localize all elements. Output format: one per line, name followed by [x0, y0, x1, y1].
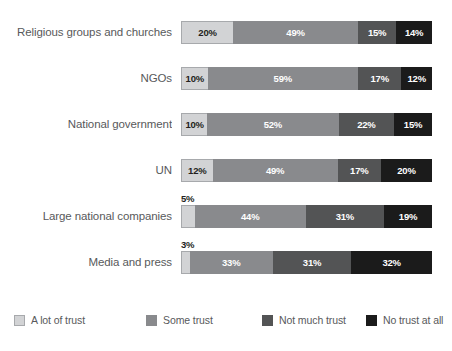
- bar-segment-value: 12%: [188, 165, 206, 176]
- bar-segment-a-lot-of-trust: 10%: [181, 67, 208, 90]
- bar-segment-a-lot-of-trust: [181, 205, 195, 228]
- legend-item-not-much-trust[interactable]: Not much trust: [262, 313, 346, 327]
- bar-segment-a-lot-of-trust: [181, 251, 190, 274]
- stacked-bar: 10%52%22%15%: [181, 113, 432, 136]
- bar-segment-value: 20%: [397, 165, 415, 176]
- legend-label: No trust at all: [383, 314, 443, 326]
- bar-segment-value: 49%: [266, 165, 284, 176]
- bar-segment-value: 44%: [241, 211, 259, 222]
- chart-row: National government10%52%22%15%: [0, 113, 452, 159]
- bar-segment-not-much-trust: 22%: [339, 113, 395, 136]
- bar-segment-value: 10%: [185, 119, 203, 130]
- segment-callout-label: 3%: [181, 240, 194, 250]
- legend-swatch-icon: [366, 315, 377, 326]
- bar-segment-no-trust-at-all: 20%: [381, 159, 432, 182]
- legend-item-no-trust-at-all[interactable]: No trust at all: [366, 313, 443, 327]
- bar-segment-a-lot-of-trust: 12%: [181, 159, 213, 182]
- stacked-bar: 44%31%19%: [181, 205, 432, 228]
- bar-segment-not-much-trust: 31%: [306, 205, 384, 228]
- bar-segment-some-trust: 59%: [208, 67, 359, 90]
- chart-row: Religious groups and churches20%49%15%14…: [0, 21, 452, 67]
- bar-segment-some-trust: 52%: [207, 113, 338, 136]
- bar-segment-no-trust-at-all: 12%: [401, 67, 432, 90]
- bar-segment-value: 49%: [286, 27, 304, 38]
- bar-segment-value: 14%: [405, 27, 423, 38]
- stacked-bar: 20%49%15%14%: [181, 21, 432, 44]
- legend-swatch-icon: [146, 315, 157, 326]
- row-category-label: Religious groups and churches: [0, 21, 172, 44]
- row-category-label: NGOs: [0, 67, 172, 90]
- bar-segment-not-much-trust: 31%: [273, 251, 351, 274]
- chart-row: Large national companies5%44%31%19%: [0, 205, 452, 251]
- bar-segment-not-much-trust: 17%: [358, 67, 401, 90]
- bar-segment-value: 31%: [303, 257, 321, 268]
- bar-segment-no-trust-at-all: 15%: [394, 113, 432, 136]
- stacked-bar: 33%31%32%: [181, 251, 432, 274]
- legend-swatch-icon: [14, 315, 25, 326]
- chart-row: NGOs10%59%17%12%: [0, 67, 452, 113]
- legend-item-some-trust[interactable]: Some trust: [146, 313, 213, 327]
- bar-segment-value: 10%: [186, 73, 204, 84]
- bar-segment-value: 22%: [357, 119, 375, 130]
- bar-segment-not-much-trust: 15%: [358, 21, 396, 44]
- bar-segment-value: 12%: [408, 73, 426, 84]
- legend-label: Some trust: [163, 314, 213, 326]
- bar-segment-no-trust-at-all: 32%: [351, 251, 432, 274]
- chart-row: UN12%49%17%20%: [0, 159, 452, 205]
- bar-segment-some-trust: 33%: [190, 251, 273, 274]
- bar-segment-value: 15%: [368, 27, 386, 38]
- row-category-label: National government: [0, 113, 172, 136]
- chart-legend: A lot of trustSome trustNot much trustNo…: [0, 313, 452, 333]
- bar-segment-value: 17%: [350, 165, 368, 176]
- row-category-label: Large national companies: [0, 205, 172, 228]
- legend-label: A lot of trust: [31, 314, 85, 326]
- bar-segment-no-trust-at-all: 19%: [384, 205, 432, 228]
- bar-segment-value: 15%: [404, 119, 422, 130]
- bar-segment-value: 32%: [382, 257, 400, 268]
- bar-segment-value: 33%: [222, 257, 240, 268]
- bar-segment-some-trust: 49%: [233, 21, 358, 44]
- chart-row: Media and press3%33%31%32%: [0, 251, 452, 297]
- stacked-bar: 12%49%17%20%: [181, 159, 432, 182]
- bar-segment-value: 52%: [264, 119, 282, 130]
- row-category-label: UN: [0, 159, 172, 182]
- legend-item-a-lot-of-trust[interactable]: A lot of trust: [14, 313, 85, 327]
- legend-swatch-icon: [262, 315, 273, 326]
- bar-segment-some-trust: 49%: [213, 159, 338, 182]
- bar-segment-not-much-trust: 17%: [338, 159, 381, 182]
- stacked-bar: 10%59%17%12%: [181, 67, 432, 90]
- bar-segment-value: 17%: [371, 73, 389, 84]
- bar-segment-some-trust: 44%: [195, 205, 306, 228]
- bar-segment-value: 20%: [198, 27, 216, 38]
- bar-segment-a-lot-of-trust: 20%: [181, 21, 233, 44]
- bar-segment-no-trust-at-all: 14%: [396, 21, 432, 44]
- legend-label: Not much trust: [279, 314, 346, 326]
- bar-segment-value: 59%: [274, 73, 292, 84]
- bar-segment-a-lot-of-trust: 10%: [181, 113, 207, 136]
- stacked-bar-chart: Religious groups and churches20%49%15%14…: [0, 0, 452, 351]
- bar-segment-value: 31%: [336, 211, 354, 222]
- segment-callout-label: 5%: [181, 194, 194, 204]
- row-category-label: Media and press: [0, 251, 172, 274]
- bar-segment-value: 19%: [399, 211, 417, 222]
